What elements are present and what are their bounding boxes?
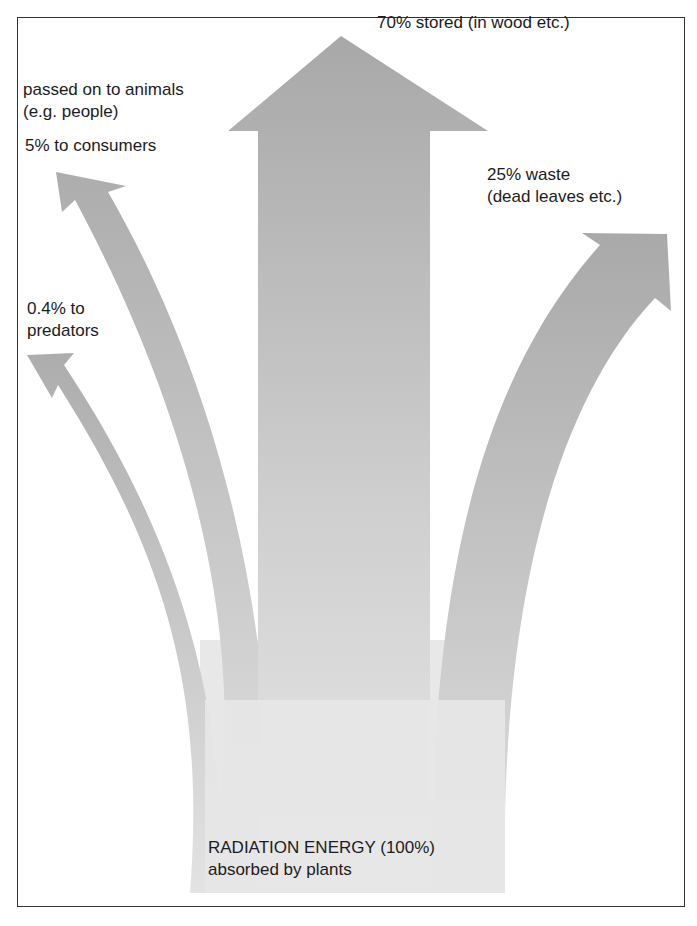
waste-label: 25% waste (dead leaves etc.) — [487, 164, 622, 208]
stored-label: 70% stored (in wood etc.) — [377, 12, 570, 34]
source-label: RADIATION ENERGY (100%) absorbed by plan… — [208, 837, 435, 881]
animals-label-line1: passed on to animals — [23, 79, 184, 101]
waste-label-line2: (dead leaves etc.) — [487, 186, 622, 208]
source-label-line1: RADIATION ENERGY (100%) — [208, 837, 435, 859]
consumers-label: 5% to consumers — [25, 135, 156, 157]
stored-label-text: 70% stored (in wood etc.) — [377, 12, 570, 34]
animals-label: passed on to animals (e.g. people) — [23, 79, 184, 123]
predators-label-line1: 0.4% to — [27, 298, 99, 320]
consumers-label-text: 5% to consumers — [25, 135, 156, 157]
source-label-line2: absorbed by plants — [208, 859, 435, 881]
animals-label-line2: (e.g. people) — [23, 101, 184, 123]
waste-label-line1: 25% waste — [487, 164, 622, 186]
predators-label-line2: predators — [27, 320, 99, 342]
predators-label: 0.4% to predators — [27, 298, 99, 342]
